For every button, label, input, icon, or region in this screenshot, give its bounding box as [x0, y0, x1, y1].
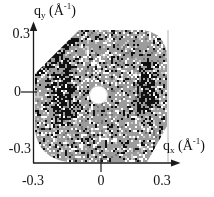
- x-tick-label-neg0.3: -0.3: [13, 173, 53, 188]
- x-axis-label: qx (Å-1): [163, 137, 205, 156]
- x-axis-unit-close: ): [200, 138, 205, 153]
- x-tick-label-0: 0: [81, 173, 121, 188]
- scattering-pattern-figure: qy (Å-1) qx (Å-1) 0.3 0 -0.3 -0.3 0 0.3: [0, 0, 214, 197]
- x-tick-label-0.3: 0.3: [142, 173, 182, 188]
- y-axis-label: qy (Å-1): [34, 2, 76, 21]
- y-tick-label-0: 0: [0, 84, 21, 99]
- y-axis-unit-close: ): [71, 3, 76, 18]
- x-axis-arrow-icon: [171, 159, 181, 166]
- y-axis-symbol: q: [34, 3, 41, 18]
- x-axis-symbol: q: [163, 138, 170, 153]
- y-tick-label-neg0.3: -0.3: [0, 141, 31, 156]
- axes-overlay: [0, 0, 214, 197]
- y-axis-unit-open: (Å: [46, 3, 64, 18]
- y-axis-arrow-icon: [30, 22, 37, 32]
- y-tick-label-0.3: 0.3: [0, 26, 30, 41]
- x-axis-unit-open: (Å: [175, 138, 193, 153]
